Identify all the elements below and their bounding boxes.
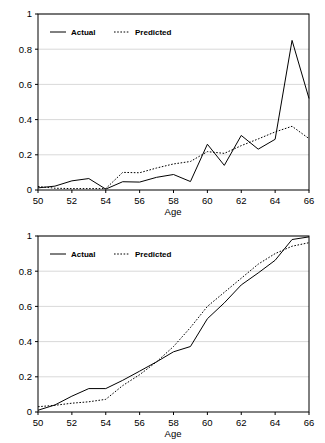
chart-bottom: 00.20.40.60.81 505254565860626466 Actual…	[0, 222, 325, 443]
plot-frame	[38, 236, 309, 412]
series-lines-top	[38, 40, 309, 189]
y-tick-label: 0.4	[19, 114, 32, 125]
chart-top: 00.20.40.60.81 505254565860626466 Actual…	[0, 0, 325, 221]
y-tick-label: 0.6	[19, 79, 32, 90]
x-tick-label: 58	[168, 195, 179, 206]
x-tick-label: 56	[134, 417, 145, 428]
x-tick-labels-bottom: 505254565860626466	[33, 412, 315, 428]
figure-container: 00.20.40.60.81 505254565860626466 Actual…	[0, 0, 325, 443]
chart-bottom-svg: 00.20.40.60.81 505254565860626466 Actual…	[0, 222, 325, 443]
series-line-predicted	[38, 243, 309, 407]
legend-bottom: ActualPredicted	[50, 250, 172, 259]
y-tick-label: 0.8	[19, 44, 32, 55]
y-tick-label: 0.6	[19, 301, 32, 312]
y-tick-labels-top: 00.20.40.60.81	[19, 8, 38, 195]
legend-label-predicted: Predicted	[135, 28, 172, 37]
legend-label-actual: Actual	[71, 28, 95, 37]
y-tick-label: 0	[27, 184, 32, 195]
series-line-actual	[38, 40, 309, 189]
x-tick-label: 50	[33, 417, 44, 428]
plot-frame-bottom	[38, 236, 309, 412]
series-line-predicted	[38, 126, 309, 188]
series-line-actual	[38, 237, 309, 410]
y-tick-labels-bottom: 00.20.40.60.81	[19, 230, 38, 417]
plot-frame	[38, 14, 309, 190]
x-tick-label: 54	[100, 195, 111, 206]
plot-frame-top	[38, 14, 309, 190]
x-tick-label: 54	[100, 417, 111, 428]
x-tick-label: 66	[304, 417, 315, 428]
x-tick-label: 62	[236, 417, 247, 428]
y-tick-label: 0.2	[19, 149, 32, 160]
series-lines-bottom	[38, 237, 309, 410]
y-tick-label: 1	[27, 230, 32, 241]
y-tick-label: 0.8	[19, 266, 32, 277]
x-tick-label: 50	[33, 195, 44, 206]
chart-top-svg: 00.20.40.60.81 505254565860626466 Actual…	[0, 0, 325, 221]
y-tick-label: 0.2	[19, 371, 32, 382]
x-tick-label: 60	[202, 195, 213, 206]
x-axis-title-bottom: Age	[165, 428, 182, 439]
x-tick-label: 64	[270, 417, 281, 428]
x-tick-labels-top: 505254565860626466	[33, 190, 315, 206]
y-tick-label: 1	[27, 8, 32, 19]
x-tick-label: 64	[270, 195, 281, 206]
x-tick-label: 52	[67, 195, 78, 206]
x-tick-label: 60	[202, 417, 213, 428]
legend-label-actual: Actual	[71, 250, 95, 259]
x-axis-title-top: Age	[165, 206, 182, 217]
x-tick-label: 52	[67, 417, 78, 428]
legend-label-predicted: Predicted	[135, 250, 172, 259]
legend-top: ActualPredicted	[50, 28, 172, 37]
x-tick-label: 58	[168, 417, 179, 428]
x-tick-label: 66	[304, 195, 315, 206]
y-tick-label: 0	[27, 406, 32, 417]
x-tick-label: 62	[236, 195, 247, 206]
y-tick-label: 0.4	[19, 336, 32, 347]
x-tick-label: 56	[134, 195, 145, 206]
